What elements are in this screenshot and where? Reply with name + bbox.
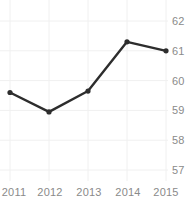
y-tick-label-61: 61 xyxy=(172,45,185,57)
data-point-2013 xyxy=(85,88,90,93)
line-chart: 62 61 60 59 58 57 2011 2012 2013 2014 20… xyxy=(0,0,195,203)
x-tick-label-2011: 2011 xyxy=(0,186,28,198)
x-tick-label-2012: 2012 xyxy=(36,186,64,198)
data-point-2015 xyxy=(163,48,168,53)
y-tick-label-59: 59 xyxy=(172,104,185,116)
x-tick-label-2013: 2013 xyxy=(75,186,103,198)
chart-plot-area xyxy=(0,0,195,203)
horizontal-gridlines xyxy=(0,21,168,170)
data-point-2011 xyxy=(7,90,12,95)
data-point-2012 xyxy=(46,109,51,114)
x-tick-label-2014: 2014 xyxy=(114,186,142,198)
y-tick-label-58: 58 xyxy=(172,134,185,146)
data-point-2014 xyxy=(124,39,129,44)
y-tick-label-57: 57 xyxy=(172,164,185,176)
y-tick-label-60: 60 xyxy=(172,75,185,87)
x-tick-label-2015: 2015 xyxy=(152,186,180,198)
y-tick-label-62: 62 xyxy=(172,15,185,27)
